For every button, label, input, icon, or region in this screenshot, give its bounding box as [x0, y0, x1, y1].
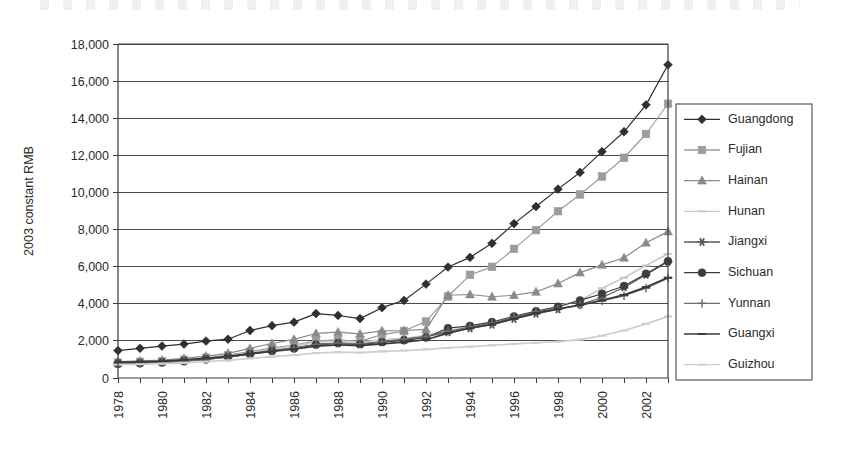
data-point-marker [554, 279, 563, 287]
data-point-marker [202, 337, 211, 346]
x-axis-tick-label: 1998 [552, 391, 566, 419]
data-point-marker [466, 271, 474, 279]
series-line [118, 104, 668, 363]
chart-figure: 02,0004,0006,0008,00010,00012,00014,0001… [0, 0, 844, 453]
data-point-marker [290, 318, 299, 327]
data-point-marker [488, 263, 496, 271]
legend-item-label: Guangxi [728, 326, 775, 340]
x-axis-tick-label: 1994 [464, 391, 478, 419]
legend-item-label: Guizhou [728, 357, 775, 371]
y-axis-tick-label: 14,000 [71, 112, 109, 126]
data-point-marker [158, 342, 167, 351]
y-axis-tick-label: 6,000 [78, 260, 109, 274]
x-axis-tick-label: 1978 [112, 391, 126, 419]
line-chart: 02,0004,0006,0008,00010,00012,00014,0001… [0, 0, 844, 453]
legend-item-label: Jiangxi [728, 234, 767, 248]
x-axis-tick-label: 1992 [420, 391, 434, 419]
gridlines-group [118, 44, 668, 341]
data-point-marker [698, 269, 706, 277]
data-point-marker [268, 321, 277, 330]
x-axis-tick-label: 2002 [640, 391, 654, 419]
series-line [118, 261, 668, 364]
y-axis-tick-label: 4,000 [78, 297, 109, 311]
x-axis-tick-label: 1984 [244, 391, 258, 419]
x-axis-group: 1978198019821984198619881990199219941996… [112, 378, 669, 419]
data-point-marker [554, 207, 562, 215]
data-point-marker [576, 191, 584, 199]
data-point-marker [246, 326, 255, 335]
y-axis-tick-label: 18,000 [71, 38, 109, 52]
x-axis-tick-label: 1990 [376, 391, 390, 419]
series-hunan [114, 254, 672, 363]
y-axis-tick-label: 16,000 [71, 75, 109, 89]
legend-item-label: Sichuan [728, 265, 773, 279]
data-point-marker [422, 318, 430, 326]
data-point-marker [510, 245, 518, 253]
data-point-marker [466, 253, 475, 262]
data-point-marker [356, 314, 365, 323]
series-group [114, 60, 673, 368]
series-fujian [114, 100, 672, 366]
y-axis-tick-label: 12,000 [71, 149, 109, 163]
y-axis-tick-label: 8,000 [78, 223, 109, 237]
y-axis-title: 2003 constant RMB [22, 146, 36, 256]
legend-item-label: Hunan [728, 204, 765, 218]
axis-frame [118, 44, 668, 378]
data-point-marker [598, 173, 606, 181]
data-point-marker [642, 130, 650, 138]
series-guangdong [114, 60, 673, 355]
data-point-marker [532, 226, 540, 234]
y-axis-tick-label: 2,000 [78, 334, 109, 348]
data-point-marker [620, 253, 629, 261]
legend-item-label: Fujian [728, 142, 762, 156]
y-axis-title-group: 2003 constant RMB [22, 146, 36, 256]
x-axis-tick-label: 1982 [200, 391, 214, 419]
data-point-marker [698, 146, 706, 154]
x-axis-tick-label: 2000 [596, 391, 610, 419]
data-point-marker [466, 290, 475, 298]
data-point-marker [620, 154, 628, 162]
data-point-marker [642, 238, 651, 246]
data-point-marker [224, 335, 233, 344]
x-axis-tick-label: 1996 [508, 391, 522, 419]
data-point-marker [598, 290, 606, 298]
legend-item-label: Guangdong [728, 112, 793, 126]
data-point-marker [642, 270, 650, 278]
series-guangxi [114, 278, 672, 363]
y-axis-tick-label: 0 [102, 372, 109, 386]
x-axis-tick-label: 1980 [156, 391, 170, 419]
series-line [118, 65, 668, 351]
data-point-marker [378, 303, 387, 312]
series-line [118, 278, 668, 363]
data-point-marker [136, 344, 145, 353]
data-point-marker [620, 282, 628, 290]
chart-legend: GuangdongFujianHainanHunanJiangxiSichuan… [676, 104, 812, 380]
legend-item-label: Yunnan [728, 296, 770, 310]
y-axis-tick-label: 10,000 [71, 186, 109, 200]
legend-item-label: Hainan [728, 173, 768, 187]
x-axis-tick-label: 1986 [288, 391, 302, 419]
series-line [118, 262, 668, 363]
x-axis-tick-label: 1988 [332, 391, 346, 419]
data-point-marker [422, 325, 431, 333]
series-yunnan [114, 274, 672, 368]
y-axis-group: 02,0004,0006,0008,00010,00012,00014,0001… [71, 38, 118, 386]
data-point-marker [334, 311, 343, 320]
data-point-marker [312, 309, 321, 318]
data-point-marker [334, 328, 343, 336]
